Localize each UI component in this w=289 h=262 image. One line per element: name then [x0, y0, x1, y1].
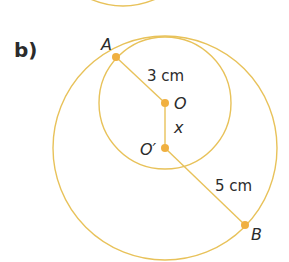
- previous-figure-arc: [88, 0, 158, 6]
- two-circles-diagram: b) A O O′ B 3 cm x 5 cm: [0, 0, 289, 262]
- label-radius-large: 5 cm: [215, 177, 252, 195]
- part-label: b): [14, 38, 37, 62]
- label-A: A: [100, 35, 112, 54]
- point-O-prime: [161, 144, 169, 152]
- label-distance-x: x: [173, 118, 184, 137]
- point-O: [161, 99, 169, 107]
- point-B: [241, 221, 249, 229]
- label-O: O: [174, 94, 187, 113]
- label-B: B: [251, 225, 262, 244]
- label-O-prime: O′: [140, 140, 157, 159]
- point-A: [112, 53, 120, 61]
- label-radius-small: 3 cm: [147, 67, 184, 85]
